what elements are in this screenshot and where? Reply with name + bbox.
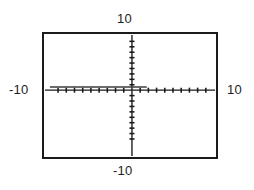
graph-viewport [42,32,218,159]
y-axis-min-label: -10 [113,164,132,178]
graphing-calculator-screenshot: 10 -10 10 -10 [0,0,254,190]
x-axis-min-label: -10 [9,83,28,97]
y-axis-max-label: 10 [117,12,132,26]
x-axis-max-label: 10 [227,83,242,97]
graph-plot-area [44,34,216,157]
